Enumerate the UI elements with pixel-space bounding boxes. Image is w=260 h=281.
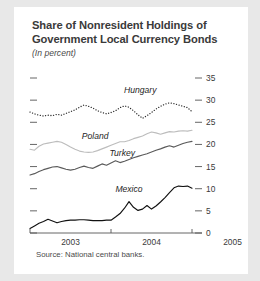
svg-text:2003: 2003 [61, 237, 80, 247]
svg-text:25: 25 [206, 117, 216, 127]
series-label-turkey: Turkey [109, 148, 135, 158]
figure-card: Share of Nonresident Holdings of Governm… [14, 7, 248, 274]
x-axis-tick-labels: 200320042005 [61, 237, 242, 247]
svg-text:5: 5 [206, 206, 211, 216]
chart-plot-area: 05101520253035 200320042005 HungaryPolan… [14, 7, 248, 274]
svg-text:30: 30 [206, 95, 216, 105]
svg-text:35: 35 [206, 73, 216, 83]
series-label-poland: Poland [82, 131, 109, 141]
svg-text:2004: 2004 [142, 237, 161, 247]
svg-text:10: 10 [206, 184, 216, 194]
y-axis-left-ticks [30, 78, 37, 233]
x-axis-ticks [30, 229, 192, 233]
chart-series-labels: HungaryPolandTurkeyMexico [82, 85, 157, 194]
y-axis-right-ticks [195, 78, 202, 233]
svg-text:15: 15 [206, 162, 216, 172]
series-label-mexico: Mexico [115, 184, 142, 194]
line-chart-svg: 05101520253035 200320042005 HungaryPolan… [14, 7, 248, 274]
chart-series-lines [30, 103, 192, 229]
svg-text:2005: 2005 [223, 237, 242, 247]
y-axis-tick-labels: 05101520253035 [206, 73, 216, 238]
svg-text:20: 20 [206, 139, 216, 149]
series-label-hungary: Hungary [124, 85, 157, 95]
source-note: Source: National central banks. [36, 250, 144, 259]
svg-text:0: 0 [206, 228, 211, 238]
